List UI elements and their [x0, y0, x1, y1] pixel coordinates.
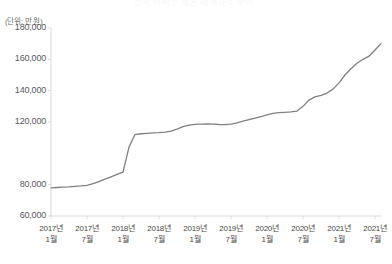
x-tick-year: 2021년	[363, 224, 386, 233]
y-axis-tick-label: 80,000	[2, 179, 46, 189]
x-axis-tick-label: 2021년7월	[353, 223, 392, 245]
y-axis-tick-label: 180,000	[2, 22, 46, 32]
y-axis-tick-label: 160,000	[2, 53, 46, 63]
data-series-line	[51, 44, 381, 188]
y-axis-tick-label: 140,000	[2, 85, 46, 95]
x-tick-month: 7월	[353, 234, 392, 245]
x-tick-year: 2017년	[75, 224, 98, 233]
x-tick-year: 2020년	[291, 224, 314, 233]
x-tick-year: 2021년	[327, 224, 350, 233]
x-tick-year: 2018년	[147, 224, 170, 233]
x-tick-year: 2019년	[219, 224, 242, 233]
x-tick-year: 2018년	[111, 224, 134, 233]
axis-group	[48, 28, 381, 219]
x-tick-year: 2019년	[183, 224, 206, 233]
y-axis-tick-label: 60,000	[2, 210, 46, 220]
x-tick-year: 2020년	[255, 224, 278, 233]
y-axis-tick-label: 120,000	[2, 116, 46, 126]
x-tick-year: 2017년	[39, 224, 62, 233]
